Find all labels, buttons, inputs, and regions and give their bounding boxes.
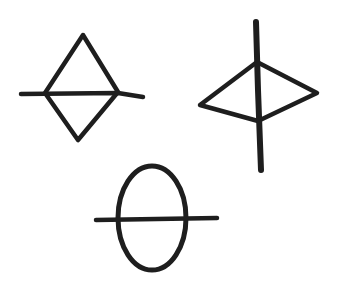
drawing-canvas — [0, 0, 340, 290]
sketch-svg — [0, 0, 340, 290]
ellipse-symbol-icon — [96, 166, 217, 270]
kite-symbol-icon — [200, 22, 317, 170]
diamond-symbol-icon — [21, 35, 143, 140]
